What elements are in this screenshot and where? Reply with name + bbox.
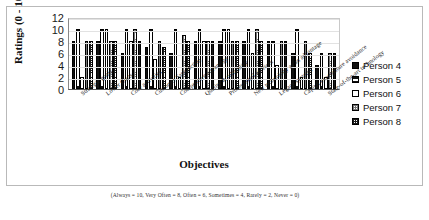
legend-item[interactable]: Person 5 bbox=[352, 72, 424, 86]
bar[interactable] bbox=[76, 29, 80, 89]
y-tick-8: 8 bbox=[46, 37, 64, 48]
legend-item[interactable]: Person 6 bbox=[352, 86, 424, 100]
gridline-10 bbox=[69, 31, 339, 32]
bar[interactable] bbox=[231, 41, 235, 89]
legend-swatch-icon bbox=[352, 62, 359, 69]
y-tick-4: 4 bbox=[46, 61, 64, 72]
y-tick-12: 12 bbox=[46, 13, 64, 24]
legend-label: Person 7 bbox=[363, 102, 401, 113]
x-axis-title: Objectives bbox=[68, 158, 340, 170]
legend-swatch-icon bbox=[352, 90, 359, 97]
bar[interactable] bbox=[158, 41, 162, 89]
chart-figure: Ratings (0 - 10) 121086420 Strategic goa… bbox=[0, 0, 429, 220]
legend-swatch-icon bbox=[352, 118, 359, 125]
gridline-12 bbox=[69, 19, 339, 20]
legend-label: Person 5 bbox=[363, 74, 401, 85]
bar[interactable] bbox=[202, 41, 206, 89]
y-tick-6: 6 bbox=[46, 49, 64, 60]
gridline-8 bbox=[69, 43, 339, 44]
bar[interactable] bbox=[133, 29, 137, 89]
bar[interactable] bbox=[105, 29, 109, 89]
legend-item[interactable]: Person 7 bbox=[352, 100, 424, 114]
y-tick-2: 2 bbox=[46, 73, 64, 84]
chart-legend: Person 4Person 5Person 6Person 7Person 8 bbox=[352, 58, 424, 128]
bar[interactable] bbox=[72, 41, 76, 89]
legend-swatch-icon bbox=[352, 76, 359, 83]
legend-label: Person 6 bbox=[363, 88, 401, 99]
bar[interactable] bbox=[85, 41, 89, 89]
chart-footnote: (Always = 10, Very Often = 8, Often = 6,… bbox=[40, 192, 370, 198]
x-axis-tick-labels: Strategic goalsLower CostsCore activitie… bbox=[68, 91, 340, 161]
bar[interactable] bbox=[129, 41, 133, 89]
y-axis-tick-labels: 121086420 bbox=[44, 18, 64, 90]
y-axis-title: Ratings (0 - 10) bbox=[12, 0, 28, 78]
legend-item[interactable]: Person 4 bbox=[352, 58, 424, 72]
bar[interactable] bbox=[280, 41, 284, 89]
bar[interactable] bbox=[109, 41, 113, 89]
legend-label: Person 4 bbox=[363, 60, 401, 71]
y-tick-10: 10 bbox=[46, 25, 64, 36]
legend-label: Person 8 bbox=[363, 116, 401, 127]
legend-item[interactable]: Person 8 bbox=[352, 114, 424, 128]
legend-swatch-icon bbox=[352, 104, 359, 111]
bar[interactable] bbox=[255, 29, 259, 89]
y-tick-0: 0 bbox=[46, 85, 64, 96]
